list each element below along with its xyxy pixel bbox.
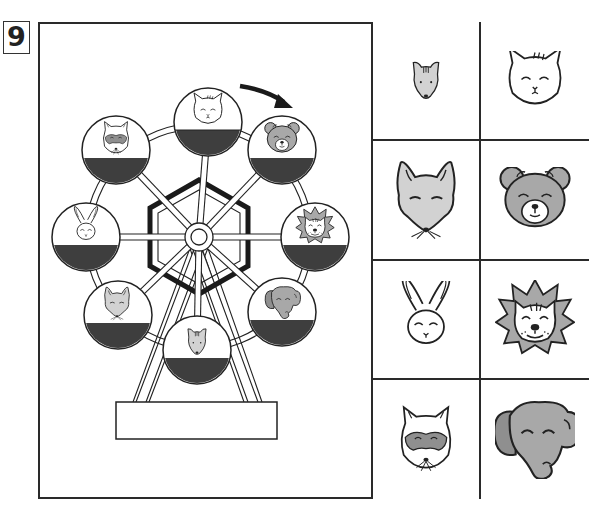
gondola-top-right-bear (248, 116, 316, 185)
raccoon-icon (393, 404, 459, 474)
gondola-bottom-left-fox (84, 281, 152, 350)
fox-icon (391, 160, 461, 240)
gondola-left-rabbit (52, 203, 120, 272)
chipmunk-icon (396, 51, 456, 111)
answer-cell-raccoon[interactable]: raccoon (371, 380, 479, 499)
gondola-right-lion (281, 203, 349, 272)
gondola-bottom-chipmunk (163, 316, 231, 385)
answer-cell-rabbit[interactable]: rabbit (371, 261, 479, 380)
answer-cell-bear[interactable]: bear (479, 141, 589, 260)
answer-grid: chipmunk cat fox bear rabbit lion raccoo… (371, 22, 589, 499)
bear-icon (497, 167, 573, 233)
gondola-top-left-raccoon (82, 116, 150, 185)
answer-cell-lion[interactable]: lion (479, 261, 589, 380)
answer-cell-chipmunk[interactable]: chipmunk (371, 22, 479, 141)
rotation-arrow-icon (240, 86, 293, 108)
cat-icon (500, 51, 570, 111)
rabbit-icon (391, 281, 461, 357)
answer-cell-cat[interactable]: cat (479, 22, 589, 141)
elephant-icon (495, 399, 575, 479)
lion-icon (495, 280, 575, 358)
gondola-bottom-right-elephant (248, 278, 316, 347)
gondola-top-cat (174, 88, 242, 157)
answer-cell-fox[interactable]: fox (371, 141, 479, 260)
answer-cell-elephant[interactable]: elephant (479, 380, 589, 499)
base-block (116, 402, 277, 439)
